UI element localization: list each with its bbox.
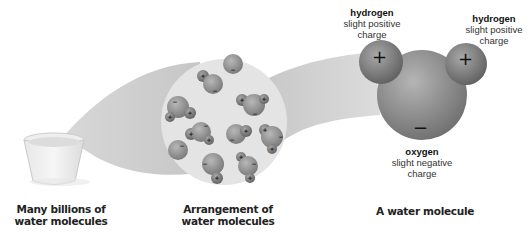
caption-arrangement: Arrangement of water molecules: [173, 203, 283, 227]
svg-text:−: −: [179, 142, 184, 149]
svg-text:+: +: [206, 136, 211, 143]
label-hydrogen-left: hydrogen slight positive charge: [332, 7, 412, 40]
water-diagram: +− − −++ ++− ++− +− +−+ − −+ +−+: [0, 0, 531, 233]
svg-text:+: +: [214, 174, 219, 181]
svg-text:−: −: [230, 66, 235, 73]
svg-text:−: −: [202, 160, 207, 167]
label-hydrogen-left-line2: charge: [332, 29, 412, 40]
svg-text:−: −: [203, 122, 208, 129]
svg-text:+: +: [200, 72, 205, 79]
svg-text:−: −: [251, 160, 256, 167]
svg-text:+: +: [269, 145, 274, 152]
svg-text:−: −: [172, 98, 177, 105]
svg-text:−: −: [252, 110, 257, 117]
label-hydrogen-right: hydrogen slight positive charge: [454, 13, 531, 46]
arrangement-circle: [161, 59, 287, 185]
svg-text:+: +: [187, 109, 192, 116]
caption-arrangement-line2: water molecules: [173, 215, 283, 227]
svg-text:−: −: [278, 133, 283, 140]
label-hydrogen-left-line1: slight positive: [332, 18, 412, 29]
caption-beaker: Many billions of water molecules: [6, 203, 116, 227]
svg-text:+: +: [247, 174, 252, 181]
svg-text:−: −: [229, 136, 234, 143]
svg-text:+: +: [243, 127, 248, 134]
positive-charge-icon-right: +: [458, 48, 473, 69]
svg-text:+: +: [239, 96, 244, 103]
svg-text:+: +: [262, 126, 267, 133]
caption-beaker-line2: water molecules: [6, 215, 116, 227]
svg-text:+: +: [238, 153, 243, 160]
label-oxygen-line2: charge: [380, 168, 464, 179]
caption-arrangement-line1: Arrangement of: [173, 203, 283, 215]
beaker-icon: [24, 133, 90, 186]
negative-charge-icon: −: [413, 117, 428, 138]
label-oxygen-name: oxygen: [380, 146, 464, 157]
svg-text:−: −: [212, 87, 217, 94]
label-oxygen-line1: slight negative: [380, 157, 464, 168]
label-hydrogen-right-line1: slight positive: [454, 24, 531, 35]
svg-text:+: +: [261, 95, 266, 102]
label-hydrogen-left-name: hydrogen: [332, 7, 412, 18]
caption-molecule: A water molecule: [370, 205, 480, 217]
label-hydrogen-right-name: hydrogen: [454, 13, 531, 24]
caption-beaker-line1: Many billions of: [6, 203, 116, 215]
svg-text:+: +: [188, 130, 193, 137]
label-oxygen: oxygen slight negative charge: [380, 146, 464, 179]
label-hydrogen-right-line2: charge: [454, 35, 531, 46]
positive-charge-icon-left: +: [372, 46, 387, 67]
svg-text:+: +: [167, 113, 172, 120]
